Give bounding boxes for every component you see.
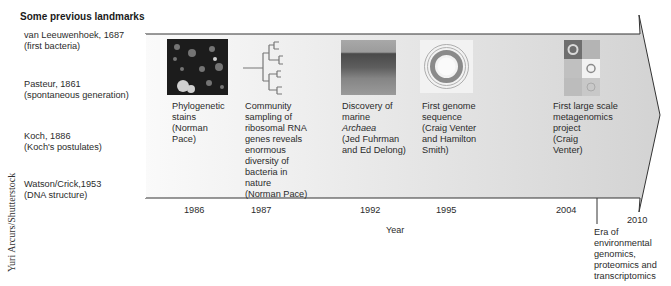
- event-caption-1995: First genomesequence (Craig Venterand Ha…: [422, 101, 476, 156]
- event-caption-1986: Phylogeneticstains (NormanPace): [172, 101, 225, 145]
- landmark-name: Pasteur, 1861: [24, 79, 129, 90]
- metagenomics-grid-image: [564, 40, 600, 96]
- landmark-note: (spontaneous generation): [24, 90, 129, 101]
- event-caption-2004: First large scalemetagenomics project(Cr…: [553, 101, 618, 156]
- event-caption-1992: Discovery ofmarine Archaea(Jed Fuhrman a…: [342, 101, 406, 156]
- landmark-name: van Leeuwenhoek, 1687: [24, 30, 124, 41]
- landmark-leeuwenhoek: van Leeuwenhoek, 1687 (first bacteria): [24, 30, 124, 52]
- year-label-1992: 1992: [360, 205, 380, 215]
- section-title: Some previous landmarks: [20, 11, 145, 22]
- event-caption-1987: Communitysampling of ribosomal RNAgenes …: [245, 101, 307, 200]
- year-label-1995: 1995: [436, 205, 456, 215]
- landmark-note: (Koch's postulates): [24, 142, 102, 153]
- ocean-horizon-image: [341, 40, 396, 95]
- axis-label-year: Year: [386, 225, 404, 235]
- landmark-watson-crick: Watson/Crick,1953 (DNA structure): [24, 179, 101, 201]
- photo-credit: Yuri Arcurs/Shutterstock: [6, 173, 17, 272]
- year-label-1986: 1986: [184, 205, 204, 215]
- landmark-koch: Koch, 1886 (Koch's postulates): [24, 131, 102, 153]
- circular-genome-image: [420, 40, 473, 93]
- year-label-2010: 2010: [627, 215, 647, 225]
- landmark-name: Watson/Crick,1953: [24, 179, 101, 190]
- year-label-2004: 2004: [556, 205, 576, 215]
- landmark-pasteur: Pasteur, 1861 (spontaneous generation): [24, 79, 129, 101]
- era-caption: Era ofenvironmental genomics,proteomics …: [594, 227, 657, 282]
- landmark-note: (first bacteria): [24, 41, 124, 52]
- stained-cells-image: [167, 39, 228, 95]
- phylogenetic-tree-image: [241, 40, 296, 98]
- landmark-name: Koch, 1886: [24, 131, 102, 142]
- landmark-note: (DNA structure): [24, 190, 101, 201]
- year-label-1987: 1987: [251, 205, 271, 215]
